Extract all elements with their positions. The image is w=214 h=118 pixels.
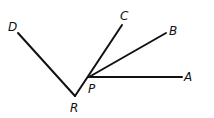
segment-RC [75, 25, 122, 96]
label-D: D [8, 20, 17, 34]
geometry-diagram: D R P C B A [0, 0, 214, 118]
segment-DR [18, 33, 75, 96]
label-R: R [70, 101, 78, 115]
label-C: C [120, 9, 129, 23]
label-A: A [183, 70, 192, 84]
label-B: B [169, 24, 177, 38]
segment-PB [89, 33, 166, 77]
label-P: P [88, 82, 96, 96]
